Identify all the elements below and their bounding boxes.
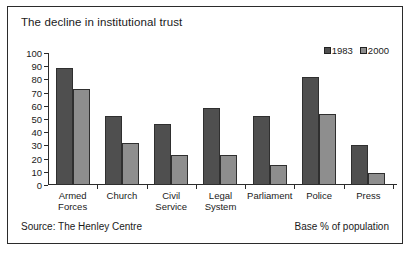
bar-civil-service-2000 bbox=[171, 155, 188, 185]
bar-parliament-1983 bbox=[253, 116, 270, 185]
bar-police-2000 bbox=[319, 114, 336, 185]
y-axis-tick bbox=[44, 185, 48, 186]
chart-figure: The decline in institutional trust 19832… bbox=[7, 6, 403, 244]
x-axis-tick bbox=[344, 185, 345, 189]
x-axis-tick bbox=[393, 185, 394, 189]
y-axis-tick-label: 90 bbox=[31, 61, 42, 72]
bar-church-1983 bbox=[105, 116, 122, 185]
x-axis-category-label: CivilService bbox=[155, 190, 187, 212]
x-axis-category-line: Church bbox=[107, 190, 138, 201]
bar-group: Press bbox=[344, 53, 393, 185]
x-axis-tick bbox=[97, 185, 98, 189]
y-axis-tick-label: 20 bbox=[31, 153, 42, 164]
x-axis-category-line: Legal bbox=[205, 190, 237, 201]
page-title: The decline in institutional trust bbox=[21, 16, 182, 28]
bar-police-1983 bbox=[302, 77, 319, 185]
y-axis-tick-label: 40 bbox=[31, 127, 42, 138]
x-axis-category-label: Church bbox=[107, 190, 138, 201]
bar-group: LegalSystem bbox=[196, 53, 245, 185]
bar-press-2000 bbox=[368, 173, 385, 185]
x-axis-tick bbox=[147, 185, 148, 189]
bar-press-1983 bbox=[351, 145, 368, 185]
bar-group: CivilService bbox=[147, 53, 196, 185]
y-axis-tick-label: 80 bbox=[31, 74, 42, 85]
bar-group: ArmedForces bbox=[48, 53, 97, 185]
bar-group: Church bbox=[97, 53, 146, 185]
x-axis-category-line: Armed bbox=[58, 190, 87, 201]
x-axis-category-line: System bbox=[205, 201, 237, 212]
bar-legal-system-2000 bbox=[220, 155, 237, 185]
x-axis-category-label: ArmedForces bbox=[58, 190, 87, 212]
bar-church-2000 bbox=[122, 143, 139, 185]
x-axis-tick bbox=[196, 185, 197, 189]
x-axis-category-label: LegalSystem bbox=[205, 190, 237, 212]
x-axis-tick bbox=[245, 185, 246, 189]
bar-armed-forces-2000 bbox=[73, 89, 90, 185]
x-axis-category-line: Forces bbox=[58, 201, 87, 212]
bar-legal-system-1983 bbox=[203, 108, 220, 185]
bar-group: Parliament bbox=[245, 53, 294, 185]
bar-armed-forces-1983 bbox=[56, 68, 73, 185]
plot-area: 0102030405060708090100ArmedForcesChurchC… bbox=[48, 53, 393, 185]
y-axis-tick-label: 10 bbox=[31, 166, 42, 177]
y-axis-tick-label: 60 bbox=[31, 100, 42, 111]
x-axis-category-line: Parliament bbox=[247, 190, 292, 201]
x-axis-tick bbox=[294, 185, 295, 189]
x-axis-category-label: Press bbox=[356, 190, 380, 201]
base-note: Base % of population bbox=[294, 221, 389, 232]
x-axis-category-line: Police bbox=[306, 190, 332, 201]
bar-group: Police bbox=[294, 53, 343, 185]
y-axis-tick-label: 70 bbox=[31, 87, 42, 98]
y-axis-tick-label: 50 bbox=[31, 114, 42, 125]
y-axis-tick-label: 100 bbox=[26, 48, 42, 59]
source-note: Source: The Henley Centre bbox=[21, 221, 142, 232]
bar-parliament-2000 bbox=[270, 165, 287, 185]
x-axis-category-label: Parliament bbox=[247, 190, 292, 201]
x-axis-category-label: Police bbox=[306, 190, 332, 201]
y-axis-tick-label: 30 bbox=[31, 140, 42, 151]
bar-civil-service-1983 bbox=[154, 124, 171, 185]
x-axis-category-line: Service bbox=[155, 201, 187, 212]
x-axis-category-line: Press bbox=[356, 190, 380, 201]
y-axis-tick-label: 0 bbox=[37, 180, 42, 191]
x-axis-category-line: Civil bbox=[155, 190, 187, 201]
